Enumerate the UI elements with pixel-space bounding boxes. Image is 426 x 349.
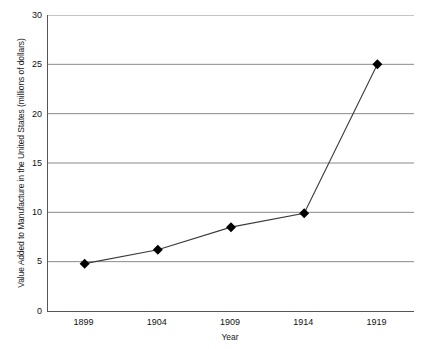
data-point-1904: [153, 245, 163, 255]
data-point-1919: [372, 59, 382, 69]
y-axis-tick-labels: 30 25 20 15 10 5 0: [26, 0, 42, 349]
x-axis-title: Year: [47, 332, 413, 343]
plot-area: [47, 15, 414, 312]
data-point-1909: [226, 222, 236, 232]
data-point-1899: [80, 259, 90, 269]
x-tick-label-1909: 1909: [220, 316, 240, 328]
y-tick-label-15: 15: [26, 159, 42, 168]
data-point-1914: [299, 208, 309, 218]
y-tick-label-20: 20: [26, 110, 42, 119]
y-tick-label-5: 5: [26, 257, 42, 266]
data-series-line: [85, 64, 378, 263]
x-tick-label-1914: 1914: [293, 316, 313, 328]
x-tick-label-1919: 1919: [366, 316, 386, 328]
line-chart-figure: Value Added to Manufacture in the United…: [0, 0, 426, 349]
x-tick-label-1904: 1904: [147, 316, 167, 328]
x-axis-tick-labels: 1899 1904 1909 1914 1919: [47, 316, 413, 330]
y-tick-label-10: 10: [26, 208, 42, 217]
data-markers: [80, 59, 383, 268]
y-tick-label-30: 30: [26, 11, 42, 20]
y-tick-label-0: 0: [26, 307, 42, 316]
y-tick-label-25: 25: [26, 60, 42, 69]
plot-svg: [48, 15, 414, 311]
x-tick-label-1899: 1899: [74, 316, 94, 328]
